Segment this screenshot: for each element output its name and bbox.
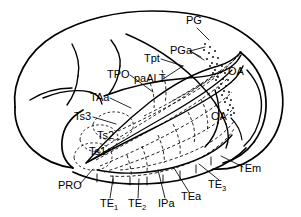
area-label-tea: TEa — [181, 190, 202, 202]
inferior-occipital-sulcus — [231, 118, 242, 140]
brain-diagram-svg: PGPGaTptpaALTTPOTAaTs3Ts2Ts1OAOAPROTE1TE… — [0, 0, 301, 217]
central-sulcus — [111, 40, 120, 66]
stipple-dot-31 — [232, 107, 234, 109]
area-label-subscript: 1 — [114, 203, 118, 212]
area-label-taa: TAa — [90, 91, 110, 103]
area-label-text: PGa — [170, 44, 193, 56]
stipple-dot-12 — [214, 69, 216, 71]
stipple-dot-1 — [209, 46, 211, 48]
area-label-te1: TE1 — [100, 197, 118, 212]
brain-outline-group — [15, 11, 283, 184]
area-label-text: Ts1 — [89, 145, 106, 157]
lunate-sulcus-lower — [205, 123, 218, 147]
area-label-text: TE — [208, 178, 222, 190]
stipple-dot-7 — [206, 58, 208, 60]
stipple-dot-2 — [214, 50, 216, 52]
stipple-dot-32 — [230, 114, 232, 116]
area-boundary-dashed-9 — [201, 99, 208, 132]
area-label-text: PG — [186, 14, 202, 26]
area-label-ts3: Ts3 — [74, 110, 91, 122]
area-label-text: paALT — [134, 72, 166, 84]
leader-line-taa — [110, 98, 131, 108]
area-label-te2: TE2 — [128, 197, 146, 212]
area-label-text: OA — [228, 65, 245, 77]
stipple-dot-29 — [229, 104, 231, 106]
stipple-dot-5 — [212, 56, 214, 58]
stipple-dot-15 — [212, 72, 214, 74]
area-label-pg: PG — [186, 14, 202, 26]
stipple-dot-0 — [204, 43, 206, 45]
leader-line-ipa — [158, 170, 165, 198]
stipple-dot-3 — [208, 52, 210, 54]
area-label-ts1: Ts1 — [89, 145, 106, 157]
area-label-tem: TEm — [238, 162, 261, 174]
stipple-dot-21 — [225, 85, 227, 87]
area-boundary-dashed-7 — [120, 120, 235, 170]
stipple-dot-30 — [227, 109, 229, 111]
stipple-dot-14 — [224, 72, 226, 74]
area-label-text: TEm — [238, 162, 261, 174]
principal-sulcus — [30, 88, 72, 100]
area-label-text: TEa — [181, 190, 202, 202]
stipple-dot-23 — [223, 90, 225, 92]
area-label-pro: PRO — [58, 179, 82, 191]
area-label-text: PRO — [58, 179, 82, 191]
area-label-te3: TE3 — [208, 178, 226, 193]
area-boundary-dashed-11 — [173, 124, 180, 154]
stipple-dot-10 — [221, 65, 223, 67]
stipple-dot-19 — [215, 79, 217, 81]
stipple-dot-27 — [230, 99, 232, 101]
area-label-oa-upper: OA — [228, 65, 245, 77]
area-label-ts2: Ts2 — [97, 129, 114, 141]
area-label-text: Ts3 — [74, 110, 91, 122]
leader-line-te2 — [138, 179, 139, 198]
area-label-text: TPO — [107, 68, 130, 80]
area-label-pga: PGa — [170, 44, 193, 56]
area-label-text: TAa — [90, 91, 110, 103]
stipple-dot-24 — [228, 91, 230, 93]
area-label-subscript: 3 — [222, 184, 226, 193]
stipple-dot-9 — [216, 63, 218, 65]
area-label-text: IPa — [158, 197, 175, 209]
area-label-text: TE — [128, 197, 142, 209]
area-label-text: Tpt — [144, 52, 160, 64]
stipple-dot-26 — [226, 97, 228, 99]
stipple-dot-4 — [203, 49, 205, 51]
stipple-dot-11 — [209, 65, 211, 67]
stipple-dot-33 — [233, 112, 235, 114]
stipple-dot-22 — [218, 87, 220, 89]
stipple-dot-18 — [227, 79, 229, 81]
stipple-dot-13 — [219, 71, 221, 73]
leader-line-pg — [197, 28, 209, 40]
area-label-tpt: Tpt — [144, 52, 160, 64]
brain-diagram-figure: PGPGaTptpaALTTPOTAaTs3Ts2Ts1OAOAPROTE1TE… — [0, 0, 301, 217]
area-label-tpo: TPO — [107, 68, 130, 80]
sts-superior-margin-posterior — [226, 124, 228, 148]
leader-line-paalt — [163, 66, 183, 79]
area-label-text: Ts2 — [97, 129, 114, 141]
area-label-ipa: IPa — [158, 197, 175, 209]
stipple-dot-28 — [224, 101, 226, 103]
area-label-text: TE — [100, 197, 114, 209]
arcuate-sulcus-upper-ramus — [72, 44, 79, 76]
stipple-dot-17 — [222, 78, 224, 80]
area-label-oa-lower: OA — [211, 110, 228, 122]
stipple-dot-6 — [217, 57, 219, 59]
area-label-subscript: 2 — [142, 203, 146, 212]
stipple-dot-20 — [220, 83, 222, 85]
stipple-dot-16 — [217, 76, 219, 78]
stipple-dot-25 — [221, 94, 223, 96]
area-label-paalt: paALT — [134, 72, 166, 84]
leader-line-pga — [190, 47, 205, 60]
leader-line-ts3 — [93, 117, 116, 124]
area-label-text: OA — [211, 110, 228, 122]
stipple-dot-8 — [211, 62, 213, 64]
